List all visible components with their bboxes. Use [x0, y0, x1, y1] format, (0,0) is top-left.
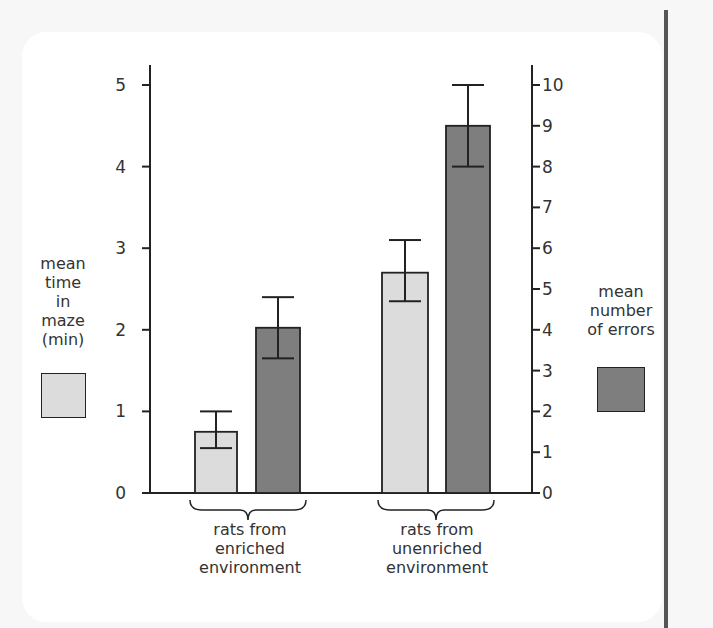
group-label-unenriched: rats from unenriched environment	[362, 520, 512, 577]
left-tick-label: 4	[115, 157, 126, 177]
right-tick-label: 4	[542, 320, 553, 340]
group-label-line: environment	[362, 558, 512, 577]
legend-swatch-errors	[597, 367, 645, 412]
right-axis-label-line: mean	[578, 282, 664, 301]
right-axis-label-line: of errors	[578, 320, 664, 339]
right-tick-label: 7	[542, 197, 553, 217]
left-axis-label-line: (min)	[28, 330, 98, 349]
group-label-line: unenriched	[362, 539, 512, 558]
left-tick-label: 3	[115, 238, 126, 258]
left-axis-label-line: mean	[28, 254, 98, 273]
right-tick-label: 0	[542, 483, 553, 503]
left-tick-label: 1	[115, 401, 126, 421]
group-brace	[378, 500, 494, 520]
right-tick-label: 6	[542, 238, 553, 258]
group-label-line: rats from	[175, 520, 325, 539]
group-brace	[190, 500, 306, 520]
bar-time	[382, 273, 428, 493]
left-tick-label: 5	[115, 75, 126, 95]
right-tick-label: 2	[542, 401, 553, 421]
group-label-line: environment	[175, 558, 325, 577]
left-tick-label: 2	[115, 320, 126, 340]
left-axis-label-line: maze	[28, 311, 98, 330]
right-tick-label: 8	[542, 157, 553, 177]
legend-swatch-time	[41, 373, 86, 418]
group-label-line: rats from	[362, 520, 512, 539]
left-axis-label: mean time in maze (min)	[28, 254, 98, 349]
right-tick-label: 9	[542, 116, 553, 136]
right-tick-label: 1	[542, 442, 553, 462]
left-axis-label-line: time	[28, 273, 98, 292]
bar-errors	[446, 126, 490, 493]
left-axis-label-line: in	[28, 292, 98, 311]
right-tick-label: 3	[542, 361, 553, 381]
group-label-line: enriched	[175, 539, 325, 558]
group-label-enriched: rats from enriched environment	[175, 520, 325, 577]
right-axis-label: mean number of errors	[578, 282, 664, 339]
left-tick-label: 0	[115, 483, 126, 503]
right-tick-label: 10	[542, 75, 564, 95]
right-axis-label-line: number	[578, 301, 664, 320]
right-tick-label: 5	[542, 279, 553, 299]
